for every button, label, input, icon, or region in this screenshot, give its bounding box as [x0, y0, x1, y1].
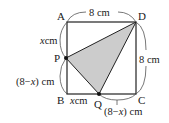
dim-qc-close: ) cm	[123, 106, 142, 118]
dim-qc: (8−x) cm	[104, 106, 142, 118]
label-b: B	[57, 94, 64, 106]
dim-ap: xcm	[39, 35, 58, 46]
label-a: A	[57, 10, 65, 22]
dim-bq: xcm	[69, 95, 88, 106]
arc-qc	[99, 94, 136, 100]
label-c: C	[138, 94, 145, 106]
point-q	[97, 92, 101, 96]
dim-top: 8 cm	[89, 7, 110, 18]
label-p: P	[54, 52, 60, 64]
dim-bq-unit: cm	[75, 95, 88, 106]
arc-pb	[60, 58, 67, 94]
label-d: D	[138, 10, 146, 22]
label-q: Q	[94, 98, 102, 110]
dim-right: 8 cm	[139, 54, 160, 65]
dim-pb: (8−x) cm	[16, 76, 54, 88]
point-p	[64, 56, 68, 60]
shaded-triangle-pqd	[66, 22, 136, 94]
dim-pb-close: ) cm	[35, 76, 54, 88]
arc-ap	[60, 22, 67, 58]
dim-pb-open: (8−	[16, 76, 31, 88]
dim-qc-open: (8−	[104, 106, 119, 118]
dim-ap-unit: cm	[45, 35, 58, 46]
geometry-figure: A D B C P Q 8 cm 8 cm xcm (8−x) cm xcm (…	[0, 0, 169, 123]
